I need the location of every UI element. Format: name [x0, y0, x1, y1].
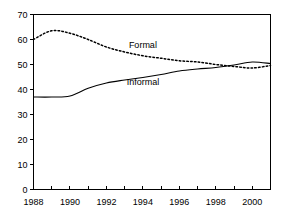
y-tick-label-60: 60	[17, 35, 27, 45]
x-tick-label-1994: 1994	[133, 197, 153, 207]
y-axis-ticks	[30, 15, 34, 190]
y-axis-tick-labels: 010203040506070	[17, 10, 27, 195]
series-annotation-formal: Formal	[129, 40, 157, 50]
x-tick-label-2000: 2000	[242, 197, 262, 207]
y-tick-label-30: 30	[17, 110, 27, 120]
x-tick-label-1988: 1988	[23, 197, 43, 207]
y-tick-label-70: 70	[17, 10, 27, 20]
line-chart: 010203040506070 198819901992199419961998…	[0, 0, 287, 223]
x-axis-tick-labels: 1988199019921994199619982000	[23, 197, 262, 207]
series-annotation-informal: Informal	[127, 77, 160, 87]
y-tick-label-50: 50	[17, 60, 27, 70]
y-tick-label-10: 10	[17, 160, 27, 170]
x-tick-label-1992: 1992	[96, 197, 116, 207]
chart-container: 010203040506070 198819901992199419961998…	[0, 0, 287, 223]
y-tick-label-20: 20	[17, 135, 27, 145]
x-tick-label-1990: 1990	[60, 197, 80, 207]
y-tick-label-0: 0	[22, 185, 27, 195]
y-tick-label-40: 40	[17, 85, 27, 95]
series-annotations: FormalInformal	[127, 40, 160, 86]
x-axis-ticks	[34, 186, 271, 190]
x-tick-label-1996: 1996	[169, 197, 189, 207]
x-tick-label-1998: 1998	[206, 197, 226, 207]
